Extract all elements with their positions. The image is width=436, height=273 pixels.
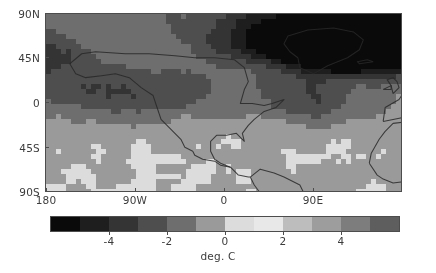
ytick-label-0: 0: [0, 97, 40, 109]
colorbar-swatch: [254, 217, 283, 231]
colorbar-swatch: [109, 217, 138, 231]
xtick-label-90e: 90E: [293, 194, 333, 206]
xtick-label-90w: 90W: [115, 194, 155, 206]
colorbar-swatch: [312, 217, 341, 231]
colorbar-unit-label: deg. C: [0, 250, 436, 262]
colorbar-swatch: [225, 217, 254, 231]
colorbar-swatch: [196, 217, 225, 231]
colorbar: [50, 216, 400, 232]
colorbar-swatch: [283, 217, 312, 231]
colorbar-tick-minus2: -2: [150, 235, 184, 247]
colorbar-swatch: [51, 217, 80, 231]
colorbar-tick-minus4: -4: [92, 235, 126, 247]
climate-anomaly-figure: 90N 45N 0 45S 90S 180 90W 0 90E -4 -2 0 …: [0, 0, 436, 273]
ytick-label-45n: 45N: [0, 52, 40, 64]
colorbar-tick-plus2: 2: [266, 235, 300, 247]
ytick-label-45s: 45S: [0, 142, 40, 154]
colorbar-swatch: [370, 217, 399, 231]
xtick-label-0: 0: [204, 194, 244, 206]
colorbar-swatch: [167, 217, 196, 231]
map-plot-area: [45, 13, 402, 192]
colorbar-tick-zero: 0: [208, 235, 242, 247]
anomaly-heatmap-canvas: [46, 14, 402, 192]
colorbar-swatch: [341, 217, 370, 231]
xtick-label-180: 180: [26, 194, 66, 206]
colorbar-tick-plus4: 4: [324, 235, 358, 247]
ytick-label-90n: 90N: [0, 8, 40, 20]
colorbar-swatch: [80, 217, 109, 231]
colorbar-swatch: [138, 217, 167, 231]
